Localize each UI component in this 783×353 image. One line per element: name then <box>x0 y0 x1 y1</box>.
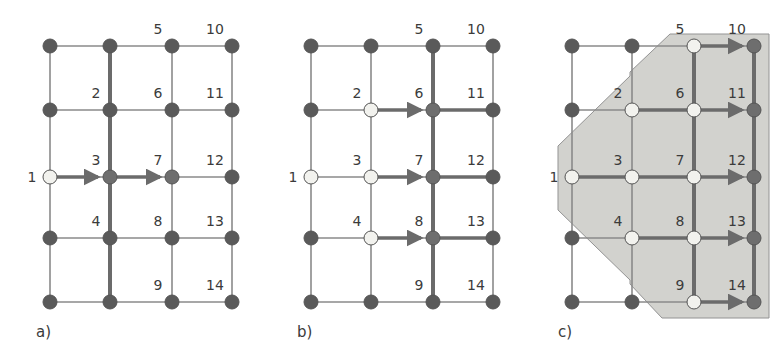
graph-nodes <box>43 39 239 309</box>
graph-node <box>625 39 639 53</box>
lattice-edges <box>311 46 493 302</box>
node-label-13: 13 <box>206 213 224 229</box>
figure-container: 1234567891011121314a)1234567891011121314… <box>0 0 783 353</box>
graph-node-5 <box>426 39 440 53</box>
graph-node <box>43 231 57 245</box>
node-label-10: 10 <box>728 21 746 37</box>
graph-node <box>304 103 318 117</box>
node-label-8: 8 <box>415 213 424 229</box>
node-label-10: 10 <box>467 21 485 37</box>
node-label-5: 5 <box>676 21 685 37</box>
graph-node-frontier-7 <box>165 170 179 184</box>
panel-a: 1234567891011121314a) <box>28 21 239 341</box>
panel-caption-a: a) <box>36 323 51 341</box>
node-label-6: 6 <box>676 85 685 101</box>
node-labels: 1234567891011121314 <box>289 21 485 293</box>
graph-node <box>364 295 378 309</box>
graph-node-visited-1 <box>43 170 57 184</box>
node-label-4: 4 <box>92 213 101 229</box>
graph-node-8 <box>165 231 179 245</box>
graph-node <box>103 295 117 309</box>
node-label-13: 13 <box>728 213 746 229</box>
node-label-7: 7 <box>676 152 685 168</box>
graph-node-visited-2 <box>625 103 639 117</box>
node-label-14: 14 <box>206 277 224 293</box>
node-label-12: 12 <box>467 152 485 168</box>
graph-node-visited-3 <box>364 170 378 184</box>
graph-node-frontier-7 <box>426 170 440 184</box>
graph-node-5 <box>165 39 179 53</box>
node-label-6: 6 <box>415 85 424 101</box>
graph-node-10 <box>486 39 500 53</box>
graph-node-frontier-12 <box>747 170 761 184</box>
node-label-8: 8 <box>154 213 163 229</box>
graph-node <box>625 295 639 309</box>
graph-node-visited-4 <box>625 231 639 245</box>
graph-node-visited-8 <box>687 231 701 245</box>
graph-node-visited-1 <box>304 170 318 184</box>
graph-node-13 <box>225 231 239 245</box>
graph-node-visited-4 <box>364 231 378 245</box>
node-label-2: 2 <box>614 85 623 101</box>
graph-node-2 <box>103 103 117 117</box>
node-label-11: 11 <box>467 85 485 101</box>
graph-node <box>304 39 318 53</box>
graph-node <box>565 103 579 117</box>
node-label-9: 9 <box>415 277 424 293</box>
graph-node-6 <box>165 103 179 117</box>
node-label-4: 4 <box>353 213 362 229</box>
graph-node <box>565 39 579 53</box>
graph-node-12 <box>225 170 239 184</box>
graph-node-4 <box>103 231 117 245</box>
panel-b: 1234567891011121314b) <box>289 21 500 341</box>
node-label-7: 7 <box>154 152 163 168</box>
node-label-1: 1 <box>289 169 298 185</box>
graph-node-frontier-11 <box>747 103 761 117</box>
node-label-3: 3 <box>353 152 362 168</box>
graph-node <box>565 295 579 309</box>
graph-node-frontier-6 <box>426 103 440 117</box>
graph-node-11 <box>225 103 239 117</box>
graph-node <box>304 231 318 245</box>
node-label-9: 9 <box>154 277 163 293</box>
node-label-7: 7 <box>415 152 424 168</box>
graph-node-visited-7 <box>687 170 701 184</box>
graph-node <box>565 231 579 245</box>
graph-node-13 <box>486 231 500 245</box>
graph-figure-svg: 1234567891011121314a)1234567891011121314… <box>0 0 783 353</box>
panel-c: 1234567891011121314c) <box>550 21 769 341</box>
node-label-13: 13 <box>467 213 485 229</box>
graph-node-12 <box>486 170 500 184</box>
graph-node-frontier-8 <box>426 231 440 245</box>
node-label-8: 8 <box>676 213 685 229</box>
graph-node-visited-5 <box>687 39 701 53</box>
node-label-12: 12 <box>206 152 224 168</box>
graph-node <box>43 295 57 309</box>
panel-caption-b: b) <box>297 323 312 341</box>
graph-node <box>43 103 57 117</box>
node-label-10: 10 <box>206 21 224 37</box>
graph-node-visited-1 <box>565 170 579 184</box>
graph-node-frontier-10 <box>747 39 761 53</box>
graph-node-14 <box>225 295 239 309</box>
node-label-3: 3 <box>614 152 623 168</box>
graph-node-visited-3 <box>625 170 639 184</box>
graph-node <box>364 39 378 53</box>
node-label-5: 5 <box>154 21 163 37</box>
graph-node-visited-9 <box>687 295 701 309</box>
node-label-5: 5 <box>415 21 424 37</box>
lattice-edges <box>50 46 232 302</box>
graph-node-11 <box>486 103 500 117</box>
graph-node-9 <box>165 295 179 309</box>
node-labels: 1234567891011121314 <box>28 21 224 293</box>
graph-node <box>304 295 318 309</box>
graph-nodes <box>304 39 500 309</box>
node-label-4: 4 <box>614 213 623 229</box>
node-label-1: 1 <box>28 169 37 185</box>
graph-node <box>103 39 117 53</box>
node-label-14: 14 <box>467 277 485 293</box>
graph-node-visited-6 <box>687 103 701 117</box>
node-label-2: 2 <box>353 85 362 101</box>
node-label-2: 2 <box>92 85 101 101</box>
panel-caption-c: c) <box>558 323 572 341</box>
